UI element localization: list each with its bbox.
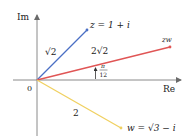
vector-zw-label: zw [161, 36, 172, 44]
vector-z-label: z = 1 + i [89, 20, 130, 30]
vector-z-modulus: √2 [45, 47, 56, 57]
vector-w-modulus: 2 [73, 108, 79, 118]
origin-label: 0 [27, 84, 32, 93]
vector-z-endpoint [86, 29, 89, 32]
vector-w-endpoint [120, 127, 123, 130]
complex-plane-diagram: Re Im 0 z = 1 + i √2 zw 2√2 w = √3 − i 2… [0, 0, 192, 140]
vector-zw-modulus: 2√2 [91, 46, 108, 56]
angle-denominator: 12 [100, 71, 108, 78]
imaginary-axis-label: Im [17, 12, 30, 22]
vector-w-label: w = √3 − i [127, 123, 176, 133]
vector-w [37, 80, 121, 128]
vector-zw-endpoint [169, 46, 172, 49]
real-axis-label: Re [163, 84, 175, 94]
